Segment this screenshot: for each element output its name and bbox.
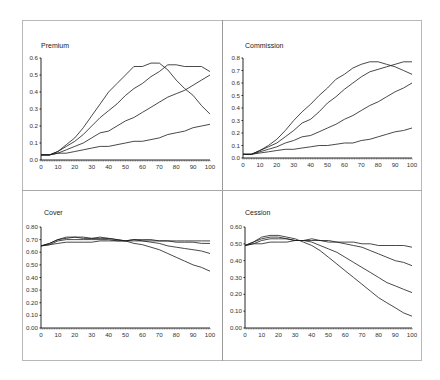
x-tick-label: 90: [392, 331, 399, 338]
x-tick-label: 30: [88, 331, 95, 338]
cover-chart: Cover 0.000.100.200.300.400.500.600.700.…: [26, 209, 216, 338]
series-line-2: [41, 65, 210, 155]
x-tick-label: 0: [39, 331, 43, 338]
y-tick-label: 0.00: [26, 324, 39, 331]
x-tick-label: 10: [54, 163, 61, 170]
x-tick-label: 10: [258, 331, 265, 338]
x-tick-label: 70: [156, 331, 163, 338]
y-tick-label: 0.7: [231, 67, 240, 74]
x-tick-label: 90: [190, 163, 197, 170]
y-tick-label: 0.20: [26, 299, 39, 306]
y-tick-label: 0.30: [26, 286, 39, 293]
x-tick-label: 20: [71, 331, 78, 338]
y-tick-label: 0.3: [231, 117, 240, 124]
x-tick-label: 0: [39, 163, 43, 170]
y-tick-label: 0.5: [231, 92, 240, 99]
x-tick-label: 30: [290, 161, 297, 168]
x-tick-label: 100: [205, 163, 216, 170]
series-line-4: [245, 241, 412, 248]
y-tick-label: 0.3: [29, 105, 38, 112]
x-tick-label: 80: [375, 331, 382, 338]
y-tick-label: 0.40: [26, 274, 39, 281]
series-line-4: [41, 240, 210, 246]
y-tick-label: 0.50: [26, 261, 39, 268]
x-tick-label: 40: [307, 161, 314, 168]
cession-chart: Cession 0.000.100.200.300.400.500.600102…: [230, 209, 418, 338]
premium-chart: Premium 0.00.10.20.30.40.50.601020304050…: [29, 42, 215, 170]
y-tick-label: 0.1: [29, 139, 38, 146]
series-line-3: [245, 239, 412, 266]
series-line-4: [243, 128, 412, 154]
y-tick-label: 0.4: [231, 104, 240, 111]
y-tick-label: 0.60: [26, 248, 39, 255]
x-tick-label: 90: [392, 161, 399, 168]
chart-title: Premium: [41, 42, 69, 49]
x-tick-label: 80: [173, 163, 180, 170]
chart-grid: Premium 0.00.10.20.30.40.50.601020304050…: [0, 0, 440, 380]
x-tick-label: 20: [273, 161, 280, 168]
x-tick-label: 70: [358, 161, 365, 168]
series-line-3: [243, 83, 412, 154]
series-line-1: [41, 63, 210, 155]
y-tick-label: 0.2: [231, 129, 240, 136]
x-tick-label: 0: [241, 161, 245, 168]
x-tick-label: 100: [205, 331, 216, 338]
y-tick-label: 0.20: [230, 290, 243, 297]
x-tick-label: 70: [156, 163, 163, 170]
x-tick-label: 60: [139, 163, 146, 170]
x-tick-label: 20: [275, 331, 282, 338]
x-tick-label: 90: [190, 331, 197, 338]
y-tick-label: 0.0: [231, 154, 240, 161]
x-tick-label: 70: [358, 331, 365, 338]
x-tick-label: 30: [88, 163, 95, 170]
y-tick-label: 0.5: [29, 71, 38, 78]
x-tick-label: 40: [308, 331, 315, 338]
series-line-4: [41, 124, 210, 155]
y-tick-label: 0.00: [230, 324, 243, 331]
series-line-1: [243, 62, 412, 155]
x-tick-label: 20: [71, 163, 78, 170]
y-tick-label: 0.6: [29, 54, 38, 61]
chart-title: Cover: [44, 209, 63, 216]
x-tick-label: 40: [105, 163, 112, 170]
y-tick-label: 0.50: [230, 240, 243, 247]
x-tick-label: 50: [324, 161, 331, 168]
x-tick-label: 0: [243, 331, 247, 338]
y-tick-label: 0.1: [231, 142, 240, 149]
x-tick-label: 10: [256, 161, 263, 168]
x-tick-label: 40: [105, 331, 112, 338]
chart-title: Commission: [245, 42, 284, 49]
y-tick-label: 0.0: [29, 156, 38, 163]
series-line-2: [243, 62, 412, 155]
x-tick-label: 60: [139, 331, 146, 338]
y-tick-label: 0.10: [230, 307, 243, 314]
x-tick-label: 60: [341, 161, 348, 168]
x-tick-label: 50: [325, 331, 332, 338]
y-tick-label: 0.80: [26, 223, 39, 230]
x-tick-label: 80: [375, 161, 382, 168]
series-line-1: [245, 235, 412, 316]
x-tick-label: 10: [54, 331, 61, 338]
x-tick-label: 50: [122, 163, 129, 170]
y-tick-label: 0.2: [29, 122, 38, 129]
y-tick-label: 0.70: [26, 236, 39, 243]
y-tick-label: 0.4: [29, 88, 38, 95]
y-tick-label: 0.30: [230, 274, 243, 281]
x-tick-label: 100: [407, 331, 418, 338]
commission-chart: Commission 0.00.10.20.30.40.50.60.70.801…: [231, 42, 417, 168]
x-tick-label: 50: [122, 331, 129, 338]
x-tick-label: 80: [173, 331, 180, 338]
y-tick-label: 0.6: [231, 79, 240, 86]
y-tick-label: 0.10: [26, 311, 39, 318]
chart-title: Cession: [245, 209, 270, 216]
x-tick-label: 30: [292, 331, 299, 338]
x-tick-label: 60: [342, 331, 349, 338]
y-tick-label: 0.8: [231, 54, 240, 61]
x-tick-label: 100: [407, 161, 418, 168]
y-tick-label: 0.60: [230, 223, 243, 230]
y-tick-label: 0.40: [230, 257, 243, 264]
